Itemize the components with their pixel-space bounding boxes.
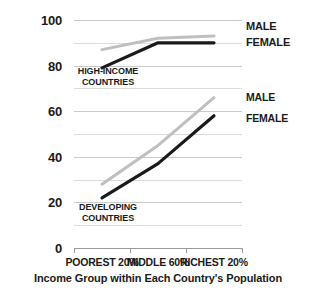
series-line-developing-countries-male xyxy=(102,98,214,185)
annotation-high-income-line2: COUNTRIES xyxy=(53,77,163,88)
legend-label-male-developing: MALE xyxy=(246,91,275,103)
annotation-developing-line2: COUNTRIES xyxy=(53,213,163,224)
annotation-high-income-line1: HIGH-INCOME xyxy=(53,66,163,77)
legend-label-male-high-income: MALE xyxy=(246,20,276,32)
annotation-high-income: HIGH-INCOME COUNTRIES xyxy=(53,66,163,89)
annotation-developing: DEVELOPING COUNTRIES xyxy=(53,202,163,225)
annotation-developing-line1: DEVELOPING xyxy=(53,202,163,213)
legend-label-female-developing: FEMALE xyxy=(246,112,288,124)
series-line-developing-countries-female xyxy=(102,116,214,198)
legend-label-female-high-income: FEMALE xyxy=(246,36,290,48)
line-chart: 020406080100 POOREST 20%MIDDLE 60%RICHES… xyxy=(0,0,316,300)
